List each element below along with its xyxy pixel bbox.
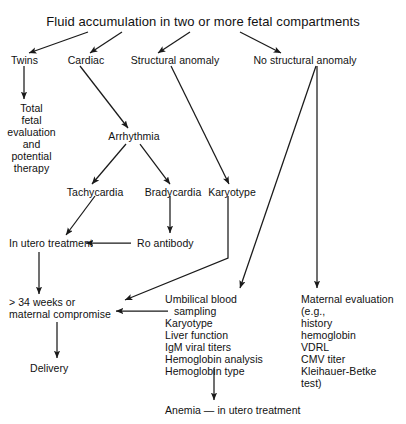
node-bradycardia[interactable]: Bradycardia [136, 186, 210, 198]
node-ro-antibody[interactable]: Ro antibody [137, 237, 217, 249]
maternal-panel-line-5: CMV titer [301, 353, 406, 365]
edge-arrhythmia-to-tachycardia [92, 144, 126, 184]
maternal-panel-line-0[interactable]: Maternal evaluation [301, 293, 406, 305]
node-total-fetal-evaluation-line5: potential [0, 150, 63, 162]
umbilical-panel-line-3: Liver function [165, 329, 290, 341]
node-total-fetal-evaluation-line4: and [0, 138, 63, 150]
edge-root-to-twins [29, 32, 88, 53]
node-total-fetal-evaluation-line2: fetal [0, 114, 63, 126]
maternal-panel-line-3: hemoglobin [301, 329, 406, 341]
node-twins[interactable]: Twins [2, 54, 47, 66]
umbilical-panel-line-5: Hemoglobin analysis [165, 353, 290, 365]
edge-structural-to-karyotype [171, 66, 229, 184]
node-anemia-in-utero-treatment[interactable]: Anemia — in utero treatment [165, 404, 335, 416]
node-no-structural-anomaly[interactable]: No structural anomaly [243, 54, 367, 66]
maternal-panel-line-4: VDRL [301, 341, 406, 353]
edge-root-to-cardiac [90, 32, 122, 53]
umbilical-panel-line-4: IgM viral titers [165, 341, 290, 353]
maternal-panel-line-1: (e.g., [301, 305, 406, 317]
node-in-utero-treatment[interactable]: In utero treatment [9, 237, 109, 249]
node-gestational-threshold-line2: maternal compromise [9, 308, 124, 320]
page-title: Fluid accumulation in two or more fetal … [30, 14, 376, 29]
maternal-panel-line-7: test) [301, 377, 406, 389]
node-karyotype[interactable]: Karyotype [201, 186, 263, 198]
umbilical-panel-line-2: Karyotype [165, 317, 290, 329]
edge-cardiac-to-arrhythmia [80, 66, 128, 128]
flowchart-canvas: Fluid accumulation in two or more fetal … [0, 0, 406, 424]
node-structural-anomaly[interactable]: Structural anomaly [122, 54, 228, 66]
node-total-fetal-evaluation-line6: therapy [0, 162, 63, 174]
edge-tachycardia-to-inutero [66, 196, 95, 235]
umbilical-panel-line-6: Hemoglobin type [165, 365, 290, 377]
edge-root-to-nostructural [240, 32, 281, 53]
maternal-panel-line-6: Kleihauer-Betke [301, 365, 406, 377]
umbilical-panel-line-0[interactable]: Umbilical blood [165, 293, 290, 305]
node-arrhythmia[interactable]: Arrhythmia [100, 130, 168, 142]
maternal-panel-line-2: history [301, 317, 406, 329]
node-gestational-threshold-line1[interactable]: > 34 weeks or [9, 296, 124, 308]
node-cardiac[interactable]: Cardiac [60, 54, 112, 66]
umbilical-panel-line-1: sampling [165, 305, 290, 317]
node-tachycardia[interactable]: Tachycardia [58, 186, 132, 198]
node-total-fetal-evaluation-line3: evaluation [0, 126, 63, 138]
edge-root-to-structural [158, 32, 190, 53]
edge-nostructural-to-umbilical [240, 66, 316, 288]
edge-arrhythmia-to-bradycardia [140, 144, 170, 184]
node-total-fetal-evaluation-line1[interactable]: Total [0, 102, 63, 114]
node-delivery[interactable]: Delivery [30, 362, 100, 374]
